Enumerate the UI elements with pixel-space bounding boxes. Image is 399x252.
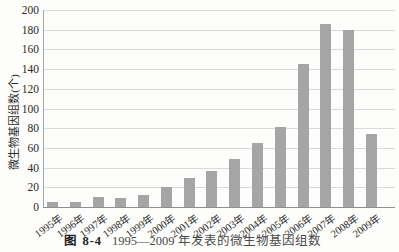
y-tick-100: 100 bbox=[3, 102, 39, 116]
plot-area bbox=[43, 10, 395, 208]
bar-2008年 bbox=[343, 30, 354, 207]
bar-2001年 bbox=[184, 178, 195, 207]
bar-chart: 微生物基因组数(个) 020406080100120140160180200 1… bbox=[0, 0, 399, 228]
bar-1995年 bbox=[47, 202, 58, 207]
bar-2006年 bbox=[298, 64, 309, 207]
y-tick-60: 60 bbox=[3, 141, 39, 155]
bar-1996年 bbox=[70, 202, 81, 207]
y-tick-180: 180 bbox=[3, 23, 39, 37]
y-tick-160: 160 bbox=[3, 42, 39, 56]
bar-2007年 bbox=[320, 24, 331, 207]
gridline-200 bbox=[44, 10, 395, 11]
y-tick-0: 0 bbox=[3, 200, 39, 214]
bar-2005年 bbox=[275, 127, 286, 207]
bar-2003年 bbox=[229, 159, 240, 207]
y-tick-20: 20 bbox=[3, 180, 39, 194]
bar-2004年 bbox=[252, 143, 263, 207]
figure-caption: 图 8-41995—2009 年发表的微生物基因组数 bbox=[0, 230, 399, 249]
bar-1997年 bbox=[93, 197, 104, 207]
y-tick-140: 140 bbox=[3, 62, 39, 76]
y-tick-120: 120 bbox=[3, 82, 39, 96]
bar-2000年 bbox=[161, 187, 172, 207]
figure-caption-text: 1995—2009 年发表的微生物基因组数 bbox=[112, 234, 321, 248]
bar-2009年 bbox=[366, 134, 377, 207]
y-tick-40: 40 bbox=[3, 161, 39, 175]
bar-1998年 bbox=[115, 198, 126, 207]
bar-1999年 bbox=[138, 195, 149, 207]
bar-2002年 bbox=[206, 171, 217, 207]
figure-8-4: 微生物基因组数(个) 020406080100120140160180200 1… bbox=[0, 0, 399, 252]
y-tick-200: 200 bbox=[3, 3, 39, 17]
y-tick-80: 80 bbox=[3, 121, 39, 135]
figure-caption-number: 图 8-4 bbox=[64, 234, 102, 248]
